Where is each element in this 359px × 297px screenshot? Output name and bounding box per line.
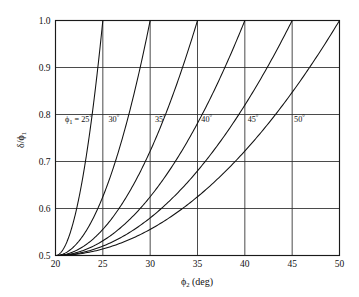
y-tick-label-0p9: 0.9	[39, 63, 51, 73]
x-tick-label-35: 35	[193, 259, 203, 269]
x-tick-label-45: 45	[287, 259, 297, 269]
y-tick-label-0p6: 0.6	[39, 204, 51, 214]
y-tick-label-0p8: 0.8	[39, 110, 51, 120]
chart-figure: ϕ1 = 25°30°35°40°45°50° 20253035404550 0…	[0, 0, 359, 297]
x-tick-label-40: 40	[240, 259, 250, 269]
x-tick-label-20: 20	[51, 259, 61, 269]
x-tick-label-30: 30	[145, 259, 155, 269]
x-tick-label-50: 50	[335, 259, 345, 269]
x-axis-title-text: ϕ2 (deg)	[181, 276, 213, 288]
x-axis-title: ϕ2 (deg)	[181, 276, 213, 288]
x-tick-label-25: 25	[98, 259, 108, 269]
y-tick-label-0p7: 0.7	[39, 157, 51, 167]
delta-phi-ratio-line-chart: ϕ1 = 25°30°35°40°45°50° 20253035404550 0…	[0, 0, 359, 297]
y-tick-label-0p5: 0.5	[39, 251, 51, 261]
y-tick-label-1: 1.0	[39, 16, 51, 26]
curve-label-0: ϕ1 = 25°	[65, 113, 93, 124]
chart-background	[0, 0, 359, 297]
